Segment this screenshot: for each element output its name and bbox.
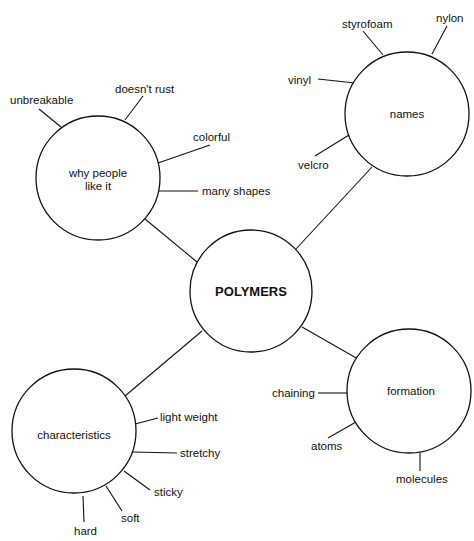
leaf-unbreakable: unbreakable	[10, 94, 73, 106]
edge-styrofoam	[363, 31, 383, 55]
node-label-why-line2: like it	[85, 180, 112, 192]
leaf-styrofoam: styrofoam	[342, 18, 393, 30]
edge-center-characteristics	[125, 331, 202, 396]
center-label: POLYMERS	[215, 284, 287, 299]
edge-atoms	[328, 422, 356, 438]
edge-center-names	[296, 167, 372, 249]
leaf-sticky: sticky	[154, 486, 183, 498]
edge-center-formation	[302, 327, 358, 359]
leaf-doesnt-rust: doesn't rust	[115, 83, 175, 95]
leaf-molecules: molecules	[396, 473, 448, 485]
node-label-formation: formation	[387, 385, 435, 397]
leaf-light-weight: light weight	[160, 411, 218, 423]
edge-unbreakable	[39, 109, 61, 127]
node-label-characteristics: characteristics	[37, 429, 111, 441]
edge-doesnt-rust	[125, 96, 143, 120]
leaf-soft: soft	[121, 512, 140, 524]
concept-map: POLYMERS why people like it names charac…	[0, 0, 474, 541]
edge-nylon	[432, 26, 447, 54]
leaf-many-shapes: many shapes	[202, 185, 271, 197]
edge-vinyl	[318, 79, 355, 83]
edge-light-weight	[135, 418, 158, 424]
leaf-hard: hard	[74, 525, 97, 537]
edge-velcro	[315, 135, 349, 156]
leaf-chaining: chaining	[272, 387, 315, 399]
leaf-velcro: velcro	[298, 159, 329, 171]
leaf-atoms: atoms	[311, 440, 343, 452]
node-label-why-line1: why people	[68, 167, 127, 179]
edge-stretchy	[132, 452, 177, 453]
leaf-vinyl: vinyl	[288, 74, 311, 86]
edge-sticky	[124, 471, 150, 490]
edge-hard	[83, 496, 84, 522]
leaf-colorful: colorful	[193, 131, 230, 143]
edge-center-why	[145, 219, 197, 262]
edge-soft	[106, 486, 122, 511]
node-label-names: names	[390, 108, 425, 120]
leaf-stretchy: stretchy	[180, 447, 221, 459]
leaf-nylon: nylon	[436, 12, 464, 24]
edge-colorful	[158, 145, 210, 163]
